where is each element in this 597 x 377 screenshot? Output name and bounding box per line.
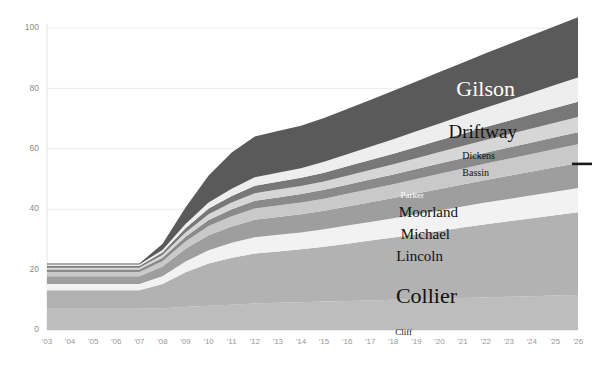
series-label-michael: Michael [401,226,450,242]
xtick-label-19: '19 [411,337,422,346]
series-label-bassin: Bassin [462,167,489,178]
series-label-lincoln: Lincoln [396,248,443,264]
xtick-label-20: '20 [434,337,445,346]
xtick-label-18: '18 [388,337,399,346]
xtick-label-25: '25 [550,337,561,346]
series-label-parker: Parker [401,190,425,200]
xtick-label-13: '13 [273,337,284,346]
series-label-gilson: Gilson [456,76,515,101]
xtick-label-23: '23 [504,337,515,346]
series-label-cliff: Cliff [395,327,412,337]
series-label-collier: Collier [396,283,458,308]
series-areas-group[interactable] [47,17,578,330]
series-label-dickens: Dickens [462,150,495,161]
xtick-label-03: '03 [42,337,53,346]
xtick-label-16: '16 [342,337,353,346]
ytick-label-100: 100 [25,22,39,32]
xtick-label-24: '24 [527,337,538,346]
xtick-label-08: '08 [157,337,168,346]
series-label-driftway: Driftway [448,121,517,142]
xtick-label-15: '15 [319,337,330,346]
xtick-label-10: '10 [203,337,214,346]
xtick-label-09: '09 [180,337,191,346]
chart-plot-surface[interactable]: '03'04'05'06'07'08'09'10'11'12'13'14'15'… [0,0,597,377]
xtick-label-06: '06 [111,337,122,346]
ytick-label-0: 0 [34,324,39,334]
xtick-label-05: '05 [88,337,99,346]
ytick-label-20: 20 [30,264,40,274]
xtick-label-21: '21 [457,337,468,346]
xtick-label-04: '04 [65,337,76,346]
ytick-label-80: 80 [30,83,40,93]
ytick-label-40: 40 [30,203,40,213]
xtick-label-22: '22 [480,337,491,346]
x-axis-tick-labels: '03'04'05'06'07'08'09'10'11'12'13'14'15'… [42,337,584,346]
xtick-label-12: '12 [250,337,261,346]
xtick-label-17: '17 [365,337,376,346]
xtick-label-11: '11 [227,337,237,346]
xtick-label-14: '14 [296,337,307,346]
series-label-moorland: Moorland [399,204,459,220]
xtick-label-07: '07 [134,337,145,346]
ytick-label-60: 60 [30,143,40,153]
xtick-label-26: '26 [573,337,584,346]
y-axis-tick-labels: 020406080100 [25,22,39,334]
stacked-area-chart: '03'04'05'06'07'08'09'10'11'12'13'14'15'… [0,0,597,377]
